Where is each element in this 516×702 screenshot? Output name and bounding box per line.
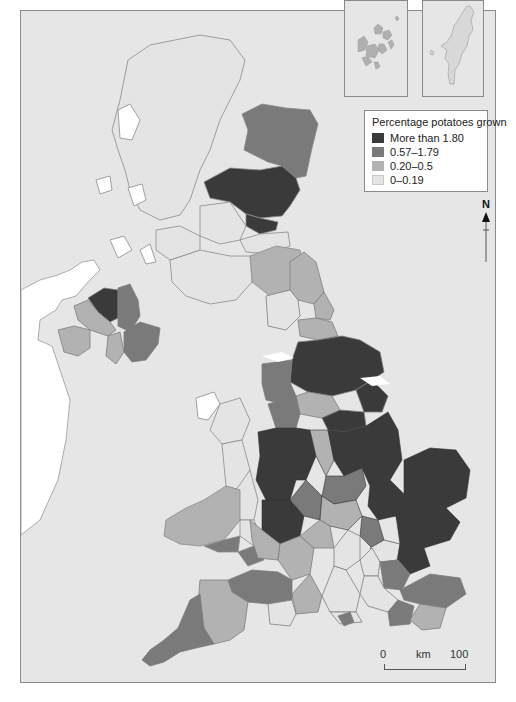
choropleth-map: [0, 0, 516, 702]
legend-swatch-class-4: [372, 175, 384, 185]
north-arrow: N: [478, 198, 494, 266]
legend-label: More than 1.80: [390, 131, 464, 145]
scotland: [96, 35, 318, 304]
legend-item: More than 1.80: [372, 131, 487, 145]
scale-end: 100: [450, 648, 468, 660]
wales: [164, 392, 264, 566]
legend-item: 0.57–1.79: [372, 145, 487, 159]
map-legend: Percentage potatoes grown More than 1.80…: [364, 110, 488, 192]
legend-item: 0.20–0.5: [372, 159, 487, 173]
legend-label: 0.20–0.5: [390, 159, 433, 173]
scale-bar-line: [384, 664, 466, 670]
orkney-islands: [358, 16, 399, 69]
north-arrow-icon: [478, 210, 494, 262]
north-label: N: [478, 198, 494, 210]
legend-title: Percentage potatoes grown: [372, 116, 487, 129]
scale-start: 0: [380, 648, 386, 660]
legend-item: 0–0.19: [372, 173, 487, 187]
shetland-islands: [430, 6, 474, 84]
legend-swatch-class-1: [372, 133, 384, 143]
legend-swatch-class-2: [372, 147, 384, 157]
scale-unit: km: [416, 648, 431, 660]
legend-label: 0.57–1.79: [390, 145, 439, 159]
legend-swatch-class-3: [372, 161, 384, 171]
legend-label: 0–0.19: [390, 173, 424, 187]
